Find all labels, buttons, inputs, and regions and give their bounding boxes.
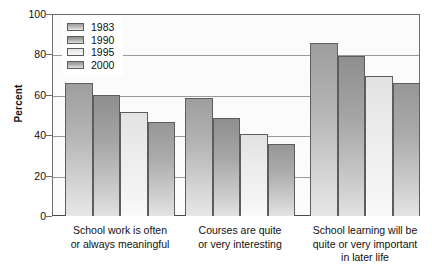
- legend-item: 1995: [67, 46, 114, 59]
- bar-group: [310, 14, 420, 216]
- y-axis-tick-mark: [45, 135, 52, 136]
- y-axis-tick-mark: [45, 176, 52, 177]
- y-axis-tick-mark: [45, 54, 52, 55]
- bar: [185, 98, 213, 216]
- bar-chart-figure: Percent 020406080100 1983199019952000 Sc…: [0, 0, 432, 271]
- legend-item-label: 1995: [91, 47, 114, 58]
- legend-item: 1983: [67, 21, 114, 34]
- y-axis-tick-label: 40: [0, 130, 46, 141]
- y-axis-tick-mark: [45, 216, 52, 217]
- y-axis-tick-label: 80: [0, 49, 46, 60]
- y-axis-tick-label: 0: [0, 211, 46, 222]
- x-axis-category-label-line: quite or very important: [275, 238, 432, 252]
- legend-item-label: 1990: [91, 35, 114, 46]
- legend-swatch-icon: [67, 48, 84, 56]
- legend-item-label: 1983: [91, 22, 114, 33]
- bar: [120, 112, 148, 216]
- bar-group: [185, 14, 295, 216]
- bar: [213, 118, 241, 216]
- legend-item-label: 2000: [91, 60, 114, 71]
- bar: [268, 144, 296, 216]
- y-axis-tick-label: 60: [0, 90, 46, 101]
- y-axis-tick-mark: [45, 95, 52, 96]
- bar: [338, 56, 366, 216]
- legend-swatch-icon: [67, 23, 84, 31]
- x-axis-category-label: School learning will bequite or very imp…: [275, 224, 432, 265]
- legend-swatch-icon: [67, 36, 84, 44]
- legend-swatch-icon: [67, 61, 84, 69]
- y-axis-title: Percent: [13, 74, 24, 134]
- legend-item: 2000: [67, 59, 114, 72]
- bar: [393, 83, 421, 216]
- bar: [148, 122, 176, 216]
- y-axis-tick-label: 100: [0, 9, 46, 20]
- y-axis-tick-mark: [45, 14, 52, 15]
- legend-item: 1990: [67, 34, 114, 47]
- legend: 1983199019952000: [62, 17, 123, 75]
- bar: [240, 134, 268, 216]
- x-axis-category-label-line: School learning will be: [275, 224, 432, 238]
- bar: [310, 43, 338, 216]
- bar: [93, 95, 121, 216]
- bar: [365, 76, 393, 216]
- bar: [65, 83, 93, 216]
- y-axis-tick-label: 20: [0, 171, 46, 182]
- x-axis-category-label-line: in later life: [275, 251, 432, 265]
